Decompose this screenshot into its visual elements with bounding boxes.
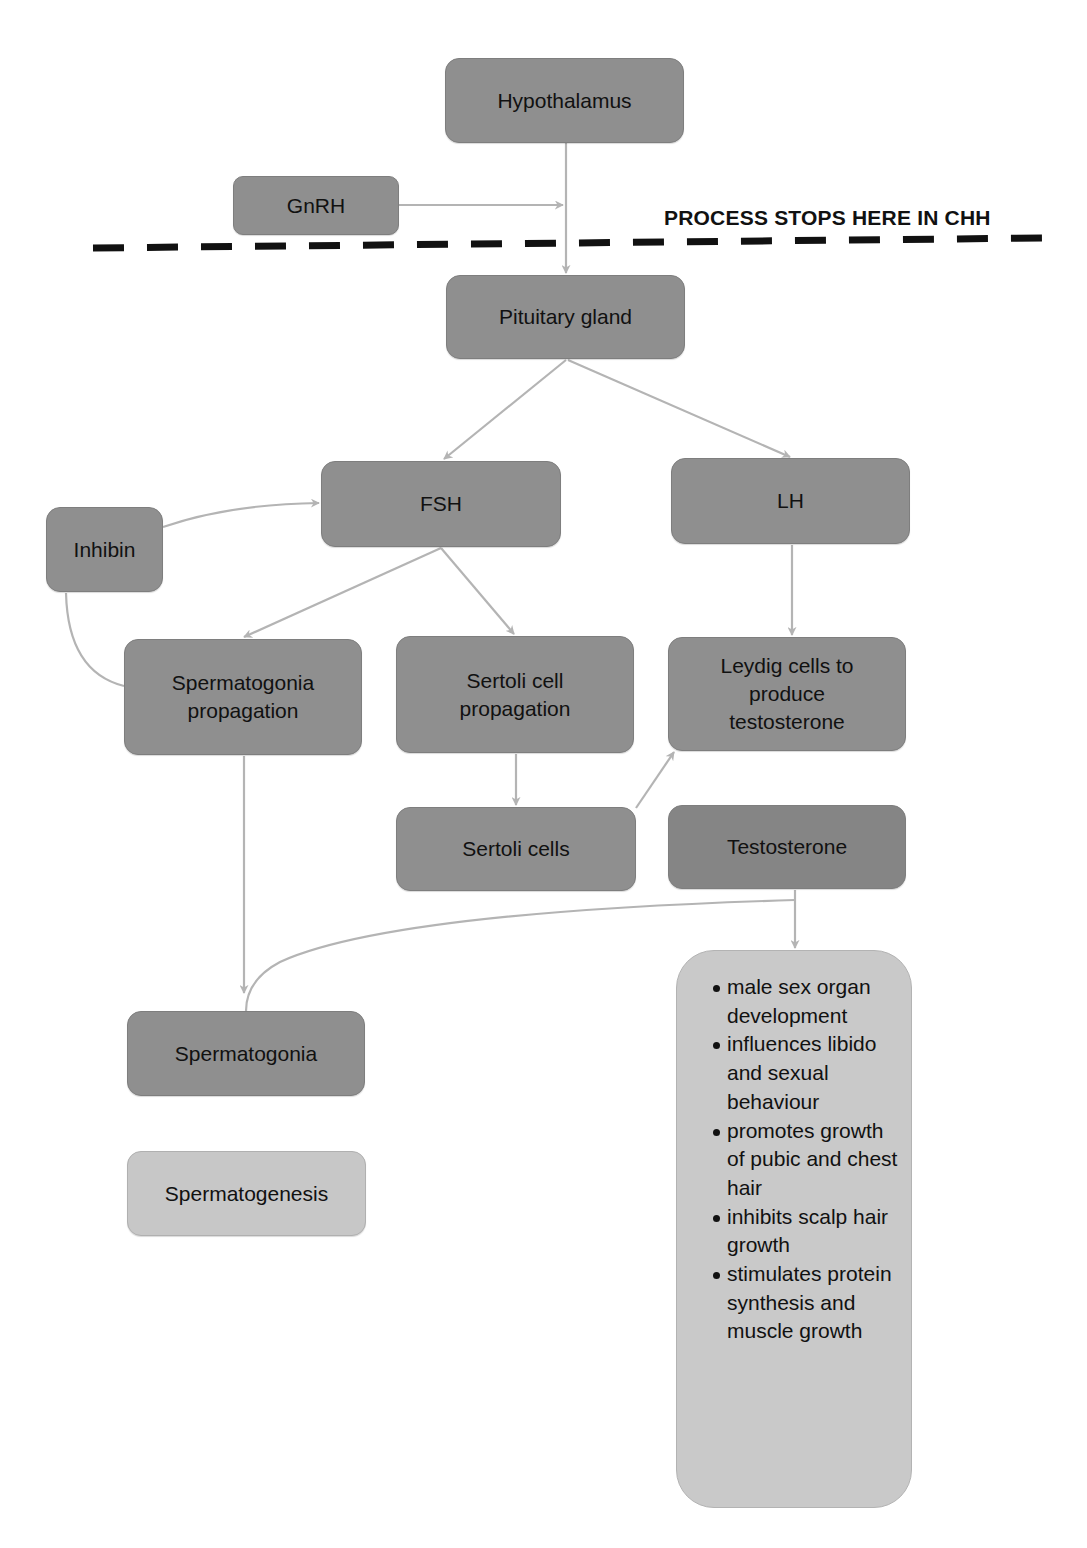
edge-sertolicells-leydig bbox=[636, 752, 674, 808]
node-spermatogenesis[interactable]: Spermatogenesis bbox=[127, 1151, 366, 1236]
node-pituitary-gland[interactable]: Pituitary gland bbox=[446, 275, 685, 359]
node-fsh[interactable]: FSH bbox=[321, 461, 561, 547]
node-hypothalamus[interactable]: Hypothalamus bbox=[445, 58, 684, 143]
effect-item: influences libido and sexual behaviour bbox=[711, 1030, 901, 1116]
node-gnrh[interactable]: GnRH bbox=[233, 176, 399, 235]
effect-item: promotes growth of pubic and chest hair bbox=[711, 1117, 901, 1203]
edge-fsh-spermprop bbox=[244, 548, 441, 637]
node-sertoli-cell-propagation[interactable]: Sertoli cell propagation bbox=[396, 636, 634, 753]
node-label: Spermatogonia bbox=[175, 1040, 317, 1068]
testosterone-effects-list: male sex organ development influences li… bbox=[711, 973, 901, 1346]
node-testosterone[interactable]: Testosterone bbox=[668, 805, 906, 889]
node-spermatogonia[interactable]: Spermatogonia bbox=[127, 1011, 365, 1096]
node-label: Spermatogenesis bbox=[165, 1180, 328, 1208]
edge-spermprop-inhibin bbox=[66, 593, 124, 686]
node-label: Hypothalamus bbox=[497, 87, 631, 115]
node-inhibin[interactable]: Inhibin bbox=[46, 507, 163, 592]
effect-item: inhibits scalp hair growth bbox=[711, 1203, 901, 1260]
node-label: Spermatogonia propagation bbox=[155, 669, 331, 725]
node-sertoli-cells[interactable]: Sertoli cells bbox=[396, 807, 636, 891]
node-label: LH bbox=[777, 487, 804, 515]
testosterone-effects-box[interactable]: male sex organ development influences li… bbox=[676, 950, 912, 1508]
node-label: Testosterone bbox=[727, 833, 847, 861]
node-leydig-cells[interactable]: Leydig cells to produce testosterone bbox=[668, 637, 906, 751]
node-label: Inhibin bbox=[74, 536, 136, 564]
node-lh[interactable]: LH bbox=[671, 458, 910, 544]
node-label: GnRH bbox=[287, 192, 345, 220]
node-spermatogonia-propagation[interactable]: Spermatogonia propagation bbox=[124, 639, 362, 755]
edge-fsh-sertoliprop bbox=[441, 548, 514, 634]
chh-banner-label: PROCESS STOPS HERE IN CHH bbox=[664, 206, 991, 230]
edge-pituitary-lh bbox=[568, 360, 790, 457]
edge-pituitary-fsh bbox=[444, 360, 566, 459]
connector-layer bbox=[0, 0, 1087, 1548]
chh-dashed-line bbox=[93, 238, 1044, 248]
node-label: Sertoli cell propagation bbox=[442, 667, 588, 723]
node-label: Leydig cells to produce testosterone bbox=[705, 652, 869, 736]
node-label: Sertoli cells bbox=[462, 835, 569, 863]
node-label: Pituitary gland bbox=[499, 303, 632, 331]
node-label: FSH bbox=[420, 490, 462, 518]
edge-inhibin-fsh bbox=[163, 503, 319, 527]
effect-item: stimulates protein synthesis and muscle … bbox=[711, 1260, 901, 1346]
effect-item: male sex organ development bbox=[711, 973, 901, 1030]
